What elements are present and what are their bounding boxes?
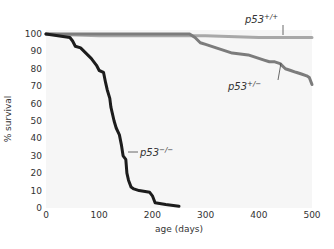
x-tick-label: 100 xyxy=(91,210,108,220)
y-tick-label: 20 xyxy=(31,168,43,178)
y-axis-title: % survival xyxy=(3,96,13,143)
plot-area xyxy=(46,30,312,208)
series-label: p53+/+ xyxy=(244,13,278,25)
x-axis-ticks: 0100200300400500 xyxy=(43,210,321,220)
x-axis-title: age (days) xyxy=(155,224,203,234)
y-tick-label: 10 xyxy=(31,186,43,196)
x-tick-label: 200 xyxy=(144,210,161,220)
y-axis-ticks: 0102030405060708090100 xyxy=(25,29,42,213)
x-tick-label: 300 xyxy=(197,210,214,220)
y-tick-label: 90 xyxy=(31,46,43,56)
y-tick-label: 30 xyxy=(31,151,43,161)
y-tick-label: 80 xyxy=(31,64,43,74)
x-tick-label: 400 xyxy=(250,210,267,220)
y-tick-label: 0 xyxy=(36,203,42,213)
x-tick-label: 500 xyxy=(303,210,320,220)
y-tick-label: 100 xyxy=(25,29,42,39)
y-tick-label: 70 xyxy=(31,81,43,91)
y-tick-label: 40 xyxy=(31,133,43,143)
y-tick-label: 50 xyxy=(31,116,43,126)
y-tick-label: 60 xyxy=(31,99,43,109)
survival-chart: 0102030405060708090100 0100200300400500 … xyxy=(0,0,334,249)
x-tick-label: 0 xyxy=(43,210,49,220)
